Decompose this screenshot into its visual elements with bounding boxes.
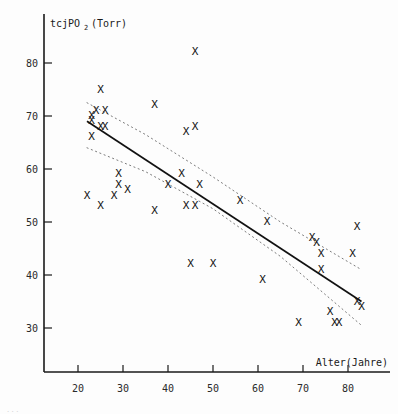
y-ticklabel-50: 50	[26, 217, 38, 228]
data-point-marker: X	[318, 263, 325, 276]
x-ticklabel-70: 70	[297, 383, 309, 394]
data-point-marker: X	[210, 257, 217, 270]
data-point-marker: X	[192, 120, 199, 133]
data-point-marker: X	[318, 247, 325, 260]
x-ticklabel-30: 30	[117, 383, 129, 394]
data-point-marker: X	[192, 45, 199, 58]
data-point-marker: X	[183, 199, 190, 212]
confidence-band-lower	[87, 148, 362, 326]
y-axis-title: tcjPO 2 (Torr)	[50, 18, 127, 32]
x-ticklabel-50: 50	[207, 383, 219, 394]
x-ticklabel-60: 60	[252, 383, 264, 394]
data-point-marker: X	[115, 178, 122, 191]
data-point-marker: X	[97, 83, 104, 96]
data-point-marker: X	[84, 189, 91, 202]
data-point-marker: X	[295, 316, 302, 329]
data-point-marker: X	[124, 183, 131, 196]
data-point-marker: X	[354, 220, 361, 233]
x-axis-title: Alter(Jahre)	[316, 357, 388, 368]
data-point-marker: X	[151, 98, 158, 111]
data-points-layer: XXXXXXXXXXXXXXXXXXXXXXXXXXXXXXXXXXXXXXXX…	[84, 45, 366, 328]
y-axis-title-subscript: 2	[84, 24, 88, 32]
data-point-marker: X	[165, 178, 172, 191]
plot-canvas: tcjPO 2 (Torr) 80 70 60 50 40 30	[0, 0, 398, 414]
data-point-marker: X	[183, 125, 190, 138]
data-point-marker: X	[196, 178, 203, 191]
x-ticklabel-40: 40	[162, 383, 174, 394]
data-point-marker: X	[336, 316, 343, 329]
data-point-marker: X	[187, 257, 194, 270]
data-point-marker: X	[349, 247, 356, 260]
data-point-marker: X	[97, 199, 104, 212]
data-point-marker: X	[259, 273, 266, 286]
data-point-marker: X	[192, 199, 199, 212]
y-ticklabel-60: 60	[26, 164, 38, 175]
data-point-marker: X	[358, 300, 365, 313]
bottom-caption: ...	[6, 406, 20, 414]
scatter-plot-figure: tcjPO 2 (Torr) 80 70 60 50 40 30	[0, 0, 398, 414]
data-point-marker: X	[264, 215, 271, 228]
data-point-marker: X	[151, 204, 158, 217]
x-ticklabel-80: 80	[342, 383, 354, 394]
y-ticklabel-30: 30	[26, 323, 38, 334]
data-point-marker: X	[102, 120, 109, 133]
data-point-marker: X	[102, 104, 109, 117]
y-ticklabel-40: 40	[26, 270, 38, 281]
x-ticklabel-20: 20	[72, 383, 84, 394]
data-point-marker: X	[93, 104, 100, 117]
data-point-marker: X	[88, 130, 95, 143]
x-axis-ticks: 20 30 40 50 60 70 80	[72, 365, 354, 394]
data-point-marker: X	[178, 167, 185, 180]
y-axis-title-main: tcjPO	[50, 18, 80, 29]
y-ticklabel-80: 80	[26, 58, 38, 69]
y-axis-ticks: 80 70 60 50 40 30	[26, 58, 52, 334]
y-ticklabel-70: 70	[26, 111, 38, 122]
y-axis-title-unit: (Torr)	[91, 18, 127, 29]
data-point-marker: X	[237, 194, 244, 207]
